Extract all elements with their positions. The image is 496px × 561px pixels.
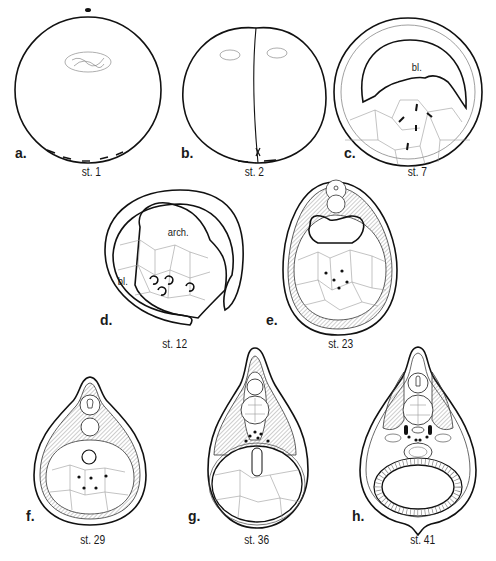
- panel-g-stage36-drawing: [208, 348, 308, 528]
- panel-label-g: g.: [188, 508, 200, 524]
- panel-h-stage41-drawing: [360, 347, 476, 535]
- panel-label-h: h.: [352, 508, 364, 524]
- panel-f-stage29-drawing: [34, 377, 146, 525]
- panel-c-blastula-drawing: [334, 18, 482, 166]
- panel-label-d: d.: [100, 312, 112, 328]
- stage-label-g: st. 36: [244, 533, 269, 547]
- embryo-stages-figure: [0, 0, 496, 561]
- panel-a-egg-drawing: [15, 8, 161, 163]
- stage-label-d: st. 12: [162, 337, 187, 351]
- stage-label-c: st. 7: [408, 165, 427, 179]
- stage-label-e: st. 23: [328, 337, 353, 351]
- annotation-blastopore-d: bl.: [118, 275, 128, 287]
- stage-label-f: st. 29: [80, 533, 105, 547]
- annotation-archenteron-d: arch.: [168, 226, 189, 238]
- stage-label-a: st. 1: [82, 165, 101, 179]
- panel-d-gastrula-drawing: [105, 190, 243, 325]
- panel-label-e: e.: [266, 312, 278, 328]
- panel-b-two-cell-drawing: [183, 28, 326, 163]
- panel-e-stage23-drawing: [283, 180, 397, 335]
- panel-label-f: f.: [26, 508, 35, 524]
- annotation-blastocoel-c: bl.: [412, 61, 422, 73]
- panel-label-a: a.: [15, 145, 27, 161]
- stage-label-b: st. 2: [245, 165, 264, 179]
- stage-label-h: st. 41: [410, 533, 435, 547]
- panel-label-b: b.: [181, 145, 193, 161]
- panel-label-c: c.: [344, 145, 356, 161]
